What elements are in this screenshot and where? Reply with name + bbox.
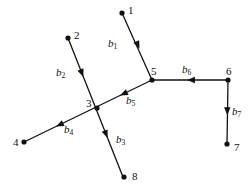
- node-dot-3: [94, 105, 99, 110]
- node-label-5: 5: [151, 66, 157, 77]
- edge-label-b5-sub: 5: [132, 99, 136, 108]
- edge-line-b1: [122, 13, 152, 80]
- edge-label-b3: b3: [116, 134, 125, 145]
- node-label-2: 2: [74, 30, 80, 41]
- edge-label-b4-base: b: [64, 123, 70, 135]
- arrowhead-b7: [224, 107, 231, 115]
- node-label-3: 3: [86, 98, 92, 109]
- node-dot-2: [65, 35, 70, 40]
- diagram-canvas: 1 2 3 4 5 6 7 8 b1 b2 b3 b4 b5 b6 b7: [0, 0, 251, 190]
- edge-arrowheads: [55, 40, 231, 139]
- edge-label-b4-sub: 4: [70, 128, 74, 137]
- edge-label-b3-base: b: [116, 133, 122, 145]
- node-dot-7: [224, 141, 229, 146]
- edge-label-b6-sub: 6: [188, 68, 192, 77]
- arrowhead-b6: [187, 77, 195, 83]
- edge-label-b4: b4: [64, 124, 73, 135]
- edge-label-b7-base: b: [232, 105, 238, 117]
- edge-label-b2-sub: 2: [62, 71, 66, 80]
- edge-label-b5-base: b: [126, 94, 132, 106]
- arrowhead-b2: [77, 68, 86, 78]
- edge-label-b1: b1: [108, 38, 117, 49]
- edge-label-b7: b7: [232, 106, 241, 117]
- edge-label-b1-base: b: [108, 37, 114, 49]
- node-dot-1: [119, 10, 124, 15]
- node-dot-5: [149, 77, 154, 82]
- edge-label-b6: b6: [182, 64, 191, 75]
- node-dot-6: [225, 77, 230, 82]
- edge-label-b3-sub: 3: [122, 138, 126, 147]
- node-label-6: 6: [226, 66, 232, 77]
- arrowhead-b3: [102, 129, 111, 139]
- node-label-4: 4: [13, 137, 19, 148]
- edge-label-b2: b2: [56, 67, 65, 78]
- node-dot-8: [121, 174, 126, 179]
- edge-label-b5: b5: [126, 95, 135, 106]
- node-label-8: 8: [132, 171, 138, 182]
- edge-label-b1-sub: 1: [114, 42, 118, 51]
- edge-label-b6-base: b: [182, 63, 188, 75]
- node-label-1: 1: [128, 5, 134, 16]
- node-dot-4: [21, 139, 26, 144]
- edge-label-b7-sub: 7: [238, 110, 242, 119]
- edge-label-b2-base: b: [56, 66, 62, 78]
- node-label-7: 7: [234, 142, 240, 153]
